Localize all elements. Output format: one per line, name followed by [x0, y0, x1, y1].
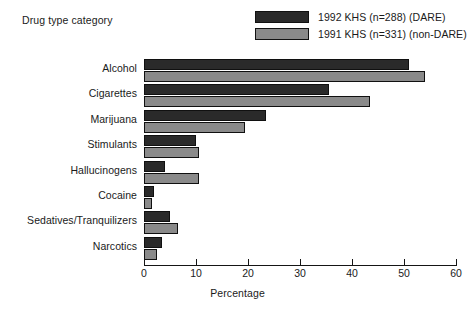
x-tick [352, 259, 353, 265]
legend-label-non-dare: 1991 KHS (n=331) (non-DARE) [318, 28, 467, 40]
bar-non-dare[interactable] [144, 122, 245, 133]
x-tick-label: 50 [398, 267, 410, 279]
x-tick [300, 259, 301, 265]
category-label: Stimulants [87, 138, 137, 150]
bar-dare[interactable] [144, 110, 266, 121]
bar-dare[interactable] [144, 211, 170, 222]
category-label: Marijuana [90, 113, 137, 125]
y-axis-title: Drug type category [22, 14, 113, 26]
bar-dare[interactable] [144, 161, 165, 172]
bar-chart: Drug type category 1992 KHS (n=288) (DAR… [0, 0, 475, 315]
category-label: Sedatives/Tranquilizers [27, 214, 137, 226]
x-tick [144, 259, 145, 265]
bar-dare[interactable] [144, 59, 409, 70]
bar-group: Sedatives/Tranquilizers [144, 210, 456, 235]
bar-group: Cigarettes [144, 83, 456, 108]
bar-non-dare[interactable] [144, 198, 152, 209]
bar-dare[interactable] [144, 84, 329, 95]
legend-item-non-dare[interactable]: 1991 KHS (n=331) (non-DARE) [255, 26, 467, 41]
x-axis-title: Percentage [0, 287, 475, 299]
legend-item-dare[interactable]: 1992 KHS (n=288) (DARE) [255, 9, 467, 24]
bar-dare[interactable] [144, 135, 196, 146]
legend-label-dare: 1992 KHS (n=288) (DARE) [318, 11, 446, 23]
bar-non-dare[interactable] [144, 173, 199, 184]
x-tick-label: 40 [346, 267, 358, 279]
x-tick-label: 60 [450, 267, 462, 279]
x-axis-line [144, 265, 457, 266]
x-tick-label: 10 [190, 267, 202, 279]
legend-swatch-non-dare [255, 28, 309, 40]
plot-area: AlcoholCigarettesMarijuanaStimulantsHall… [144, 58, 456, 261]
bar-group: Alcohol [144, 58, 456, 83]
bar-non-dare[interactable] [144, 71, 425, 82]
x-tick [456, 259, 457, 265]
legend-swatch-dare [255, 11, 309, 23]
bar-group: Cocaine [144, 185, 456, 210]
bar-group: Narcotics [144, 236, 456, 261]
x-tick-label: 30 [294, 267, 306, 279]
category-label: Narcotics [93, 240, 137, 252]
x-tick-label: 0 [141, 267, 147, 279]
category-label: Hallucinogens [70, 164, 137, 176]
bar-non-dare[interactable] [144, 249, 157, 260]
chart-legend: 1992 KHS (n=288) (DARE) 1991 KHS (n=331)… [255, 9, 467, 43]
bar-non-dare[interactable] [144, 147, 199, 158]
x-tick [248, 259, 249, 265]
bar-dare[interactable] [144, 186, 154, 197]
x-tick [196, 259, 197, 265]
bar-dare[interactable] [144, 237, 162, 248]
category-label: Cigarettes [89, 87, 137, 99]
bar-group: Marijuana [144, 109, 456, 134]
bar-non-dare[interactable] [144, 223, 178, 234]
bar-group: Stimulants [144, 134, 456, 159]
x-tick-label: 20 [242, 267, 254, 279]
category-label: Cocaine [98, 189, 137, 201]
category-label: Alcohol [102, 62, 137, 74]
bar-group: Hallucinogens [144, 160, 456, 185]
x-tick [404, 259, 405, 265]
bar-non-dare[interactable] [144, 96, 370, 107]
